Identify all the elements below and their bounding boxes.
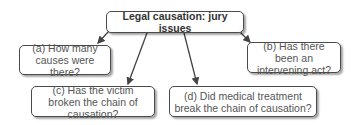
node-a-text: (a) How many causes were there? [24, 42, 106, 78]
node-b: (b) Has there been an intervening act? [247, 42, 341, 73]
node-a: (a) How many causes were there? [19, 45, 111, 75]
node-d-text: (d) Did medical treatment break the chai… [174, 90, 312, 114]
node-c: (c) Has the victim broken the chain of c… [31, 86, 155, 117]
node-d: (d) Did medical treatment break the chai… [169, 86, 317, 117]
title-node: Legal causation: jury issues [106, 11, 244, 33]
title-text: Legal causation: jury issues [111, 10, 239, 34]
arrow-to-c [128, 33, 147, 84]
node-c-text: (c) Has the victim broken the chain of c… [36, 84, 150, 120]
node-b-text: (b) Has there been an intervening act? [252, 40, 336, 76]
arrow-to-d [184, 33, 197, 84]
